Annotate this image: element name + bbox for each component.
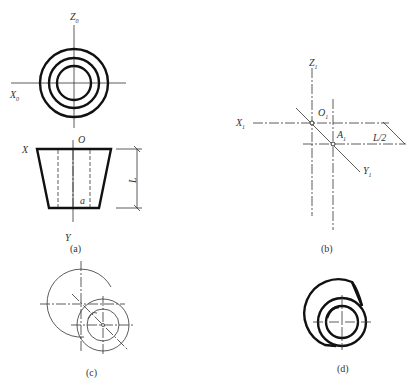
center-point — [102, 324, 105, 327]
caption-b: (b) — [321, 243, 333, 255]
x1-label: X1 — [235, 117, 245, 130]
point-a1 — [331, 142, 335, 146]
inner-intersection-curve — [327, 307, 339, 318]
panel-c: (c) — [40, 261, 135, 379]
caption-c: (c) — [86, 367, 97, 379]
panel-b: Z1 X1 O1 A1 Y1 L/2 (b) — [235, 57, 406, 255]
a1-label: A1 — [336, 129, 346, 142]
y-label: Y — [65, 232, 72, 243]
panel-d: (d) — [304, 279, 372, 375]
panel-a-top-view: Z0 X0 — [9, 11, 126, 128]
point-o1 — [310, 121, 314, 125]
z1-label: Z1 — [309, 57, 318, 70]
large-circle-visible-arc — [47, 269, 111, 337]
L-half-label: L/2 — [372, 132, 386, 143]
point-a-label: a — [80, 195, 85, 206]
z0-label: Z0 — [70, 11, 79, 24]
origin-o-label: O — [78, 134, 85, 145]
caption-a: (a) — [70, 243, 81, 255]
o1-label: O1 — [318, 107, 328, 120]
caption-d: (d) — [337, 363, 349, 375]
technical-drawing: Z0 X0 L X O a Y (a) Z1 X1 O1 A1 Y1 — [0, 0, 420, 385]
x-label: X — [21, 144, 29, 155]
y1-label: Y1 — [363, 165, 372, 178]
dim-L-label: L — [127, 177, 138, 184]
panel-a-front-view: L X O a Y (a) — [21, 134, 142, 255]
x0-label: X0 — [9, 89, 19, 102]
cone-outline — [37, 149, 111, 208]
diagonal-axis — [72, 294, 128, 350]
